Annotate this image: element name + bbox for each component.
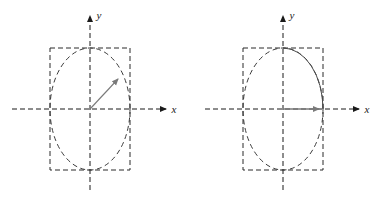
left-y-axis-label: y xyxy=(96,9,102,21)
figure-canvas: x y x y xyxy=(0,0,387,198)
left-x-axis-label: x xyxy=(171,103,177,115)
canvas-background xyxy=(0,0,387,198)
right-x-axis-label: x xyxy=(364,103,370,115)
right-y-axis-label: y xyxy=(289,9,295,21)
